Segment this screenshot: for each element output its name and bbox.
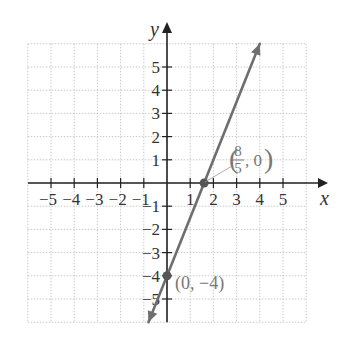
x-axis-label: x [319,187,329,209]
y-tick-label: −2 [142,220,160,239]
x-tick-label: 3 [232,190,241,209]
y-axis-arrow-icon [162,22,172,33]
x-tick-label: 2 [209,190,218,209]
x-tick-label: 1 [186,190,195,209]
data-point-marker [200,179,209,188]
point-label-x-intercept: ( 8 5 , 0 ) [205,143,273,182]
y-tick-label: 2 [152,128,161,147]
fraction-denominator: 5 [234,160,242,176]
y-tick-label: −4 [142,267,161,286]
point-label-rest: , 0 [245,151,262,170]
point-label-y-intercept: (0, −4) [175,273,224,294]
y-tick-label: 5 [152,58,161,77]
close-paren: ) [264,143,273,174]
coordinate-plane: −5−4−3−2−112345−5−4−3−2−112345 y x ( 8 5… [0,0,347,338]
x-tick-label: −4 [62,190,81,209]
x-tick-label: 5 [279,190,288,209]
x-tick-label: −5 [39,190,57,209]
y-tick-label: 4 [152,81,161,100]
x-tick-label: −2 [109,190,127,209]
y-tick-label: −3 [142,244,160,263]
x-tick-label: 4 [256,190,265,209]
y-tick-label: −1 [142,197,160,216]
data-point-marker [163,271,172,280]
y-tick-label: 1 [152,151,161,170]
y-axis-label: y [148,18,159,41]
x-tick-label: −3 [85,190,103,209]
y-tick-label: 3 [152,104,161,123]
fraction-numerator: 8 [234,143,242,159]
